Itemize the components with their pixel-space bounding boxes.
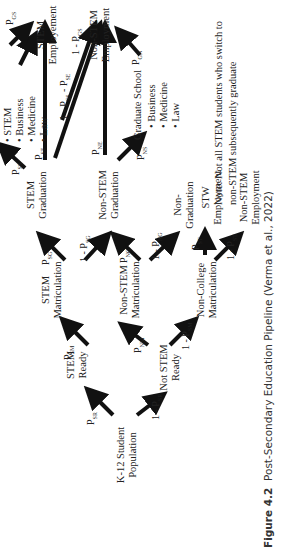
arrow-stemready-to-stemmatric (63, 320, 88, 345)
prob-p-sr: PSR (85, 412, 98, 425)
node-non-college-matriculation: Non-College Matriculation (195, 255, 219, 325)
node-text: Not STEM (158, 340, 170, 395)
graduate-school-options: Business Medicine Law (146, 82, 182, 128)
prob-p-ns: PNS (135, 147, 148, 160)
pipeline-diagram: K-12 Student Population STEM Ready Not S… (0, 0, 282, 560)
node-stem-employment: STEM Employement (35, 0, 59, 70)
prob-p-gs: PGS (4, 12, 17, 25)
prob-p-ng: PNG (118, 249, 131, 263)
node-text: Non-STEM (118, 255, 130, 325)
prob-p-ne: PNE (90, 141, 103, 155)
node-text: Graduation (184, 175, 196, 235)
prob-1-p-sr: 1 - PSR (150, 394, 163, 420)
node-text: Employment (250, 165, 262, 230)
node-text: Non-STEM (97, 160, 109, 230)
list-item: STEM (2, 96, 14, 142)
node-text: STEM (35, 0, 47, 70)
node-text: STW (200, 165, 212, 230)
prob-1-p-ng: 1 - PNG (150, 232, 163, 260)
prob-1-p-st: 1 - PST (225, 234, 238, 260)
node-k12-population: K-12 Student Population (115, 420, 139, 490)
prob-1-p-gs: 1 - PGS (70, 28, 83, 55)
prob-p-gn: PGN (130, 51, 143, 65)
node-text: Population (127, 420, 139, 490)
node-text: Employement (47, 0, 59, 70)
arrow-stemlist-to-stememp (20, 35, 35, 65)
figure-caption-text: Post-Secondary Education Pipeline (Verma… (262, 191, 274, 481)
node-text: Employment (100, 0, 112, 70)
arrow-ss-to-stememp (10, 25, 30, 45)
node-text: STEM (40, 255, 52, 325)
figure-number: Figure 4.2 (262, 488, 274, 548)
node-graduate-school: Graduate School (132, 70, 144, 140)
node-stem-graduation: STEM Graduation (25, 160, 49, 230)
node-text: Matriculation (130, 255, 142, 325)
prob-p-se: PSE (33, 147, 46, 160)
prob-1-p-sg: 1 - PSG (78, 235, 91, 262)
list-item: Law (170, 82, 182, 128)
node-non-graduation: Non- Graduation (172, 175, 196, 235)
prob-p-st: PST (190, 237, 203, 250)
prob-1-p-sm: 1 - PSM (180, 322, 193, 350)
node-text: Matriculation (207, 255, 219, 325)
list-item: Medicine (26, 96, 38, 142)
prob-p-nm: PNM (132, 338, 145, 353)
node-text: Ready (77, 345, 89, 385)
node-text: Graduation (37, 160, 49, 230)
list-item: Business (146, 82, 158, 128)
prob-1-p-ss-p-se: 1 - PSS - PSE (58, 73, 71, 120)
list-item: Business (14, 96, 26, 142)
node-text: Non- (172, 175, 184, 235)
node-non-stem-employment-top: Non-STEM Employment (88, 0, 112, 70)
node-non-stem-employment-bottom: Non-STEM Employment (238, 165, 262, 230)
node-text: Non-STEM (88, 0, 100, 70)
list-item: Medicine (158, 82, 170, 128)
node-text: Matriculation (52, 255, 64, 325)
node-text: Non-College (195, 255, 207, 325)
node-non-stem-matriculation: Non-STEM Matriculation (118, 255, 142, 325)
node-non-stem-graduation: Non-STEM Graduation (97, 160, 121, 230)
prob-p-ss: PSS (10, 163, 23, 175)
node-text: Graduation (109, 160, 121, 230)
note-text: Note: Not all STEM students who switch t… (212, 15, 240, 205)
prob-p-sg: PSG (40, 252, 53, 265)
prob-p-sm: PSM (62, 346, 75, 360)
figure-caption: Figure 4.2 Post-Secondary Education Pipe… (262, 191, 274, 548)
node-text: K-12 Student (115, 420, 127, 490)
node-text: STEM (25, 160, 37, 230)
list-item: Law (38, 96, 50, 142)
stem-graduation-options: STEM Business Medicine Law (2, 96, 50, 142)
node-stem-matriculation: STEM Matriculation (40, 255, 64, 325)
node-not-stem-ready: Not STEM Ready (158, 340, 182, 395)
